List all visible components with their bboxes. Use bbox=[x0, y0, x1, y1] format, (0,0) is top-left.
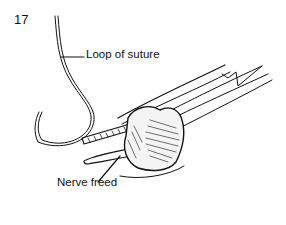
suture-loop bbox=[38, 16, 91, 143]
illustration-drawing bbox=[0, 0, 286, 225]
label-loop-of-suture: Loop of suture bbox=[86, 48, 160, 60]
figure-number: 17 bbox=[14, 12, 28, 27]
tissue-mass bbox=[125, 107, 184, 171]
label-nerve-freed: Nerve freed bbox=[57, 176, 117, 188]
